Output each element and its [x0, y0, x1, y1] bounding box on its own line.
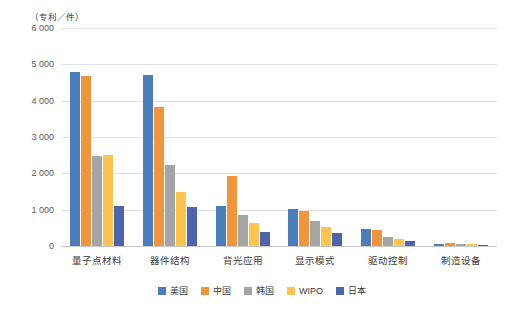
legend-item[interactable]: WIPO — [287, 286, 323, 296]
legend-item[interactable]: 韩国 — [244, 284, 274, 297]
chart-legend: 美国中国韩国WIPO日本 — [0, 284, 524, 297]
bar — [445, 243, 455, 246]
legend-label: 韩国 — [256, 284, 274, 297]
legend-swatch-icon — [287, 287, 295, 295]
bar — [299, 211, 309, 246]
legend-swatch-icon — [201, 287, 209, 295]
y-axis-tick-label: 4 000 — [31, 96, 54, 106]
bar-groups: 量子点材料器件结构背光应用显示模式驱动控制制造设备 — [61, 28, 497, 246]
y-axis-unit-label: （专利／件） — [30, 10, 84, 22]
bar — [114, 206, 124, 246]
bar — [332, 233, 342, 246]
bar — [405, 241, 415, 246]
bar — [103, 155, 113, 246]
bar — [372, 230, 382, 246]
legend-swatch-icon — [336, 287, 344, 295]
bar — [383, 237, 393, 246]
bar-group: 制造设备 — [424, 28, 497, 246]
bar — [249, 223, 259, 246]
legend-item[interactable]: 日本 — [336, 284, 366, 297]
bar — [260, 232, 270, 246]
bar — [361, 229, 371, 246]
x-axis-tick-label: 器件结构 — [134, 253, 207, 267]
legend-label: WIPO — [299, 286, 323, 296]
x-axis-line: 0 — [61, 246, 497, 247]
x-axis-tick-label: 显示模式 — [279, 253, 352, 267]
bar-chart: （专利／件） 6 0005 0004 0003 0002 0001 0000 量… — [0, 0, 524, 311]
bar-set — [424, 28, 497, 246]
x-axis-tick-label: 量子点材料 — [61, 253, 134, 267]
bar-group: 量子点材料 — [61, 28, 134, 246]
bar — [288, 209, 298, 246]
y-axis-tick-label: 5 000 — [31, 59, 54, 69]
bar-set — [352, 28, 425, 246]
bar — [321, 227, 331, 246]
bar — [467, 244, 477, 246]
bar — [81, 76, 91, 246]
bar-set — [134, 28, 207, 246]
bar — [187, 207, 197, 246]
legend-label: 中国 — [213, 284, 231, 297]
bar — [216, 206, 226, 246]
bar-group: 背光应用 — [206, 28, 279, 246]
bar-set — [206, 28, 279, 246]
plot-area: 6 0005 0004 0003 0002 0001 0000 量子点材料器件结… — [61, 28, 497, 246]
bar — [165, 165, 175, 246]
bar — [227, 176, 237, 246]
legend-swatch-icon — [158, 287, 166, 295]
bar — [176, 192, 186, 247]
y-axis-tick-label: 1 000 — [31, 205, 54, 215]
y-axis-tick-label: 2 000 — [31, 168, 54, 178]
y-axis-tick-label: 6 000 — [31, 23, 54, 33]
legend-item[interactable]: 中国 — [201, 284, 231, 297]
bar — [143, 75, 153, 246]
y-axis-tick-label: 3 000 — [31, 132, 54, 142]
legend-swatch-icon — [244, 287, 252, 295]
bar — [456, 244, 466, 246]
legend-label: 美国 — [170, 284, 188, 297]
bar — [394, 239, 404, 246]
x-axis-tick-label: 驱动控制 — [352, 253, 425, 267]
bar — [434, 244, 444, 246]
bar — [478, 245, 488, 246]
bar-group: 器件结构 — [134, 28, 207, 246]
x-axis-tick-label: 背光应用 — [206, 253, 279, 267]
bar — [238, 215, 248, 246]
bar-set — [61, 28, 134, 246]
bar-group: 显示模式 — [279, 28, 352, 246]
x-axis-tick-label: 制造设备 — [424, 253, 497, 267]
y-axis-tick-label: 0 — [49, 241, 54, 251]
bar-group: 驱动控制 — [352, 28, 425, 246]
bar-set — [279, 28, 352, 246]
legend-item[interactable]: 美国 — [158, 284, 188, 297]
bar — [154, 107, 164, 246]
bar — [310, 221, 320, 246]
legend-label: 日本 — [348, 284, 366, 297]
bar — [92, 156, 102, 246]
bar — [70, 72, 80, 246]
